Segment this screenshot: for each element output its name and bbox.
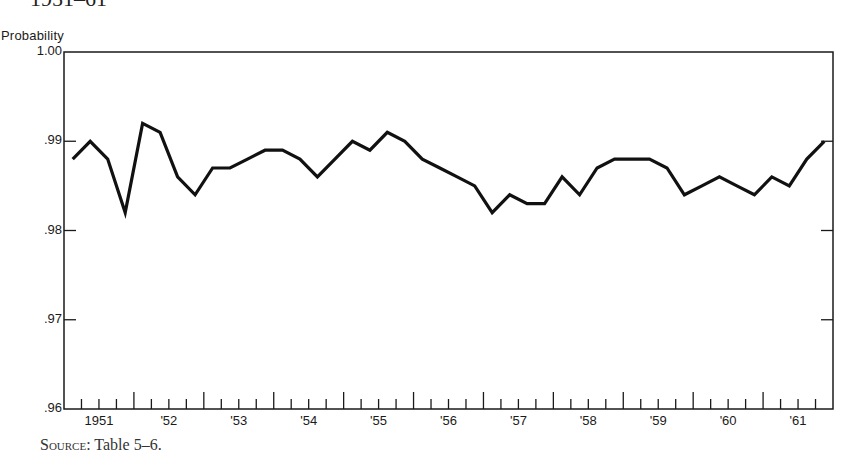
source-prefix: Source [40,436,86,453]
plot-frame [64,52,833,409]
source-text: : Table 5–6. [86,436,161,453]
line-chart [0,0,859,467]
source-prefix-text: Source [40,436,86,453]
source-note: Source: Table 5–6. [40,436,162,454]
data-line [73,123,825,212]
